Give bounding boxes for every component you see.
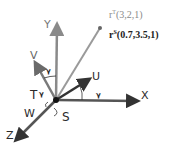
z-axis: [17, 100, 56, 139]
x-axis: [56, 100, 136, 101]
t-rotation-label: T: [29, 88, 38, 102]
gamma-label-t: γ: [39, 90, 44, 98]
u-axis-label: U: [92, 70, 100, 83]
r-t-label: rT(3,2,1): [109, 9, 143, 21]
coordinate-rotation-diagram: Y V γ X U γ Z W T γ S rT(3,2,1) rS(0.7,3…: [0, 0, 179, 158]
z-axis-label: Z: [6, 129, 14, 142]
s-rotation-label: S: [62, 110, 70, 124]
u-axis: [56, 80, 88, 100]
y-axis-label: Y: [43, 18, 51, 31]
v-axis-label: V: [30, 49, 38, 62]
r-vector-endpoint: [98, 26, 102, 30]
y-axis: [56, 26, 57, 100]
gamma-arc-ux: [80, 86, 82, 100]
r-s-label: rS(0.7,3.5,1): [109, 29, 158, 41]
s-rotation-arrow-icon: [54, 108, 57, 116]
r-vector: [56, 28, 100, 100]
x-axis-label: X: [141, 89, 149, 102]
gamma-arc-vy: [44, 76, 56, 78]
origin-point: [53, 97, 59, 103]
gamma-label-ux: γ: [96, 91, 101, 99]
gamma-label-vy: γ: [46, 67, 51, 75]
w-axis-label: W: [24, 107, 35, 120]
t-rotation-arrow-icon: [45, 102, 48, 107]
